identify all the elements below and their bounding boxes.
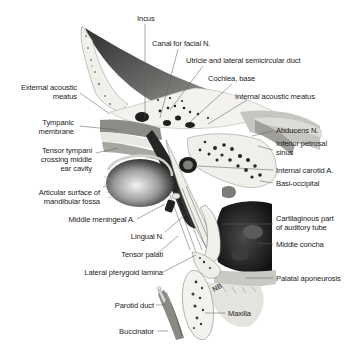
- label-lingual-nerve: Lingual N.: [131, 232, 164, 241]
- label-basi-occipital: Basi-occipital: [276, 179, 319, 188]
- label-incus: Incus: [137, 14, 155, 23]
- label-cochlea-base: Cochlea, base: [208, 74, 255, 83]
- label-utricle-semicircular-duct: Utricle and lateral semicircular duct: [186, 56, 300, 65]
- label-articular-surface: Articular surface of mandibular fossa: [39, 188, 100, 206]
- label-lateral-pterygoid-lamina: Lateral pterygoid lamina: [84, 268, 163, 277]
- mandibular-condyle: [104, 156, 180, 213]
- label-buccinator: Buccinator: [119, 327, 154, 336]
- label-canal-facial-nerve: Canal for facial N.: [152, 39, 210, 48]
- label-palatal-aponeurosis: Palatal aponeurosis: [276, 274, 341, 283]
- label-maxilla: Maxilla: [228, 309, 251, 318]
- label-middle-concha: Middle concha: [276, 240, 324, 249]
- label-parotid-duct: Parotid duct: [115, 301, 154, 310]
- label-inferior-petrosal-sinus: Inferior petrosal sinus: [276, 139, 327, 157]
- label-tensor-palati: Tensor palati: [121, 250, 163, 259]
- label-external-acoustic-meatus: External acoustic meatus: [21, 83, 77, 101]
- label-internal-acoustic-meatus: Internal acoustic meatus: [235, 92, 315, 101]
- label-internal-carotid-artery: Internal carotid A.: [276, 166, 333, 175]
- label-middle-meningeal-artery: Middle meningeal A.: [69, 215, 135, 224]
- anatomy-figure: NB: [0, 0, 362, 359]
- buccinator-strip: [157, 287, 184, 341]
- label-cartilaginous-auditory-tube: Cartilaginous part of auditory tube: [276, 214, 334, 232]
- label-tensor-tympani: Tensor tympani crossing middle ear cavit…: [41, 146, 92, 173]
- label-abducens-nerve: Abducens N.: [276, 126, 318, 135]
- label-tympanic-membrane: Tympanic membrane: [39, 118, 75, 136]
